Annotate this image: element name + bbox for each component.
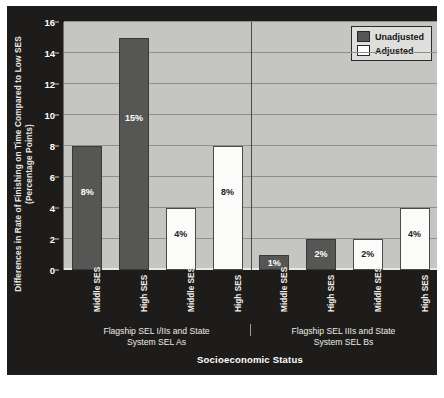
bar: 8% [213, 146, 243, 270]
y-tick-label: 12 [44, 79, 55, 90]
group-label-separator [250, 324, 251, 336]
figure-caption [10, 384, 410, 394]
bar-value-label: 8% [214, 187, 242, 197]
group-label-line1: Flagship SEL I/IIs and State [63, 326, 250, 337]
bar: 15% [119, 38, 149, 271]
y-tick-label: 16 [44, 17, 55, 28]
y-tick-mark [55, 208, 59, 209]
bar-value-label: 4% [167, 229, 195, 239]
x-tick-label: High SES [138, 260, 150, 312]
group-label-line2: System SEL As [63, 337, 250, 348]
bar-value-label: 2% [354, 249, 382, 259]
chart-figure: Differences in Rate of Finishing on Time… [0, 0, 444, 398]
group-label-line2: System SEL Bs [250, 337, 437, 348]
plot-area: Unadjusted Adjusted 8%15%4%8%1%2%2%4% [63, 22, 437, 270]
y-tick-mark [55, 177, 59, 178]
x-tick-label: High SES [419, 260, 431, 312]
y-axis-ticks: 0246810121416 [35, 22, 59, 270]
group-label-line1: Flagship SEL IIIs and State [250, 326, 437, 337]
x-axis-group-labels: Flagship SEL I/IIs and StateSystem SEL A… [63, 326, 437, 352]
y-tick-mark [55, 53, 59, 54]
y-tick-label: 10 [44, 110, 55, 121]
bar-value-label: 15% [120, 113, 148, 123]
y-tick-mark [55, 22, 59, 23]
group-label: Flagship SEL I/IIs and StateSystem SEL A… [63, 326, 250, 348]
legend-item-unadjusted: Unadjusted [357, 31, 424, 42]
x-tick-label: Middle SES [372, 260, 384, 312]
legend-label-adjusted: Adjusted [375, 46, 414, 56]
y-axis-title-line1: Differences in Rate of Finishing on Time… [13, 24, 24, 304]
x-axis-title: Socioeconomic Status [63, 354, 437, 365]
y-axis-title-line2: (Percentage Points) [24, 24, 35, 304]
group-label: Flagship SEL IIIs and StateSystem SEL Bs [250, 326, 437, 348]
x-tick-label: Middle SES [91, 260, 103, 312]
x-tick-label: High SES [325, 260, 337, 312]
x-tick-label: High SES [232, 260, 244, 312]
x-tick-label: Middle SES [185, 260, 197, 312]
y-tick-mark [55, 84, 59, 85]
bar: 8% [72, 146, 102, 270]
bar-value-label: 4% [401, 229, 429, 239]
group-divider [251, 22, 252, 270]
legend-item-adjusted: Adjusted [357, 45, 424, 56]
y-tick-mark [55, 239, 59, 240]
x-axis-category-labels: Middle SESHigh SESMiddle SESHigh SESMidd… [63, 272, 437, 324]
x-tick-label: Middle SES [278, 260, 290, 312]
legend-swatch-adjusted-icon [357, 45, 370, 56]
bar-value-label: 8% [73, 187, 101, 197]
bar-value-label: 2% [307, 249, 335, 259]
y-tick-label: 14 [44, 48, 55, 59]
chart-panel: Differences in Rate of Finishing on Time… [7, 6, 437, 375]
legend-label-unadjusted: Unadjusted [375, 32, 424, 42]
y-tick-mark [55, 115, 59, 116]
legend-swatch-unadjusted-icon [357, 31, 370, 42]
y-tick-mark [55, 146, 59, 147]
y-tick-mark [55, 270, 59, 271]
chart-legend: Unadjusted Adjusted [351, 26, 432, 61]
